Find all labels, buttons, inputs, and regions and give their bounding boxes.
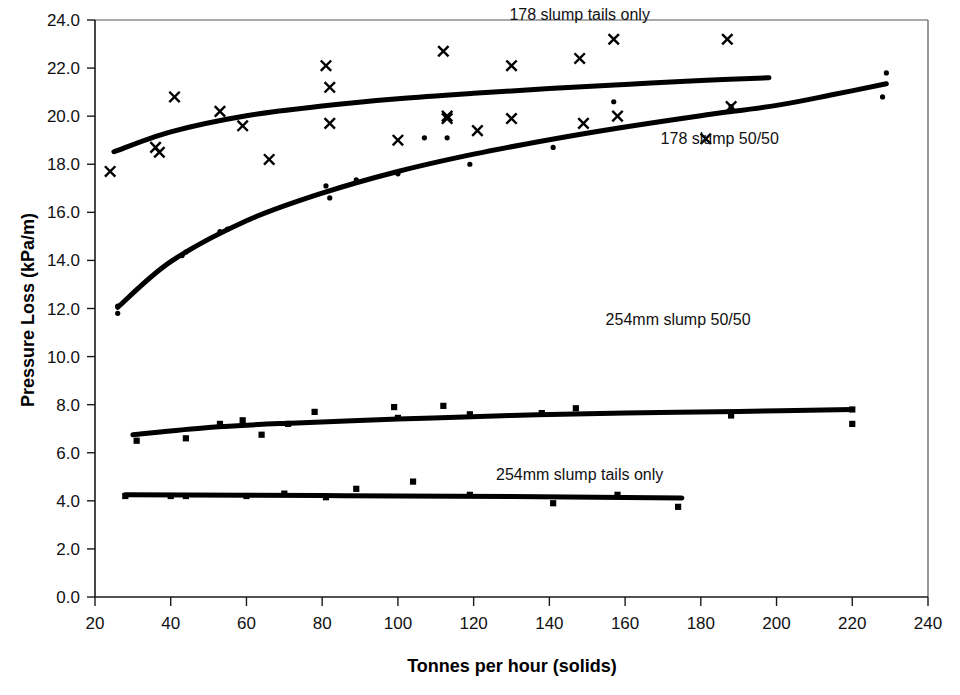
series-0-cross-marker [169, 92, 179, 102]
series-2-square-marker [728, 412, 734, 418]
series-1-dot-marker [551, 145, 556, 150]
series-0-cross-marker [325, 118, 335, 128]
series-3-square-marker [353, 486, 359, 492]
y-tick-label: 10.0 [47, 348, 80, 367]
series-1-dot-marker [115, 311, 120, 316]
series-3-square-marker [281, 491, 287, 497]
x-tick-label: 140 [535, 614, 563, 633]
y-tick-label: 16.0 [47, 203, 80, 222]
y-tick-label: 2.0 [56, 540, 80, 559]
y-axis-ticks: 0.02.04.06.08.010.012.014.016.018.020.02… [47, 11, 95, 607]
series-0-cross-marker [506, 60, 516, 70]
series-0-cross-marker [472, 125, 482, 135]
x-tick-label: 240 [914, 614, 942, 633]
pressure-loss-scatter-chart: 0.02.04.06.08.010.012.014.016.018.020.02… [0, 0, 960, 695]
series-3-square-marker [410, 479, 416, 485]
series-0-cross-marker [105, 166, 115, 176]
series-1-dot-marker [354, 177, 359, 182]
y-tick-label: 22.0 [47, 59, 80, 78]
x-tick-label: 20 [86, 614, 105, 633]
series-0-cross-marker [393, 135, 403, 145]
series-0-cross-marker [264, 154, 274, 164]
series-1-dot-marker [217, 229, 222, 234]
y-axis-title: Pressure Loss (kPa/m) [18, 213, 38, 407]
y-tick-label: 8.0 [56, 396, 80, 415]
x-tick-label: 40 [161, 614, 180, 633]
series-2-square-marker [217, 421, 223, 427]
series-0-cross-marker [722, 34, 732, 44]
x-tick-label: 100 [384, 614, 412, 633]
series-annotation-label-1: 178 slump 50/50 [661, 130, 779, 147]
x-tick-label: 200 [762, 614, 790, 633]
plot-frame [95, 20, 928, 597]
series-0-cross-marker [237, 121, 247, 131]
series-3-trend-curve [125, 495, 682, 498]
series-2-square-marker [391, 404, 397, 410]
series-annotation-label-2: 254mm slump 50/50 [606, 311, 751, 328]
series-1-dot-marker [880, 94, 885, 99]
y-tick-label: 18.0 [47, 155, 80, 174]
series-2-square-marker [285, 421, 291, 427]
series-2-square-marker [134, 438, 140, 444]
x-tick-label: 160 [611, 614, 639, 633]
series-3-square-marker [168, 493, 174, 499]
series-1-dot-marker [884, 70, 889, 75]
series-1-dot-marker [115, 303, 120, 308]
x-tick-label: 80 [313, 614, 332, 633]
series-2-square-marker [183, 435, 189, 441]
x-axis-ticks: 20406080100120140160180200220240 [86, 597, 943, 633]
series-3-square-marker [614, 492, 620, 498]
series-1-dot-marker [729, 104, 734, 109]
x-axis-title: Tonnes per hour (solids) [407, 656, 617, 676]
series-0-cross-marker [578, 118, 588, 128]
series-0-cross-marker [506, 113, 516, 123]
series-1-dot-marker [327, 195, 332, 200]
series-3-square-marker [183, 493, 189, 499]
series-0-cross-marker [154, 147, 164, 157]
series-1-dot-marker [422, 135, 427, 140]
series-2-square-marker [849, 406, 855, 412]
series-2-square-marker [467, 411, 473, 417]
y-tick-label: 14.0 [47, 251, 80, 270]
series-1-dot-marker [183, 249, 188, 254]
series-0-cross-marker [215, 106, 225, 116]
series-0-markers [105, 34, 736, 177]
series-3-square-marker [675, 504, 681, 510]
series-2-square-marker [240, 417, 246, 423]
x-tick-label: 60 [237, 614, 256, 633]
series-1-dot-marker [225, 227, 230, 232]
series-1-dot-marker [445, 135, 450, 140]
y-tick-label: 6.0 [56, 444, 80, 463]
x-tick-label: 180 [687, 614, 715, 633]
series-0-cross-marker [574, 53, 584, 63]
y-tick-label: 0.0 [56, 588, 80, 607]
y-tick-label: 24.0 [47, 11, 80, 30]
series-3-square-marker [243, 493, 249, 499]
series-0-cross-marker [438, 46, 448, 56]
series-annotation-label-0: 178 slump tails only [509, 6, 650, 23]
x-tick-label: 220 [838, 614, 866, 633]
series-3-square-marker [550, 500, 556, 506]
series-0-cross-marker [612, 111, 622, 121]
series-3-square-marker [467, 492, 473, 498]
series-2-square-marker [539, 410, 545, 416]
series-3-square-marker [323, 494, 329, 500]
y-tick-label: 12.0 [47, 300, 80, 319]
chart-container: 0.02.04.06.08.010.012.014.016.018.020.02… [0, 0, 960, 695]
series-2-square-marker [573, 405, 579, 411]
series-1-dot-marker [323, 183, 328, 188]
series-1-dot-marker [395, 171, 400, 176]
series-1-dot-marker [467, 162, 472, 167]
series-2-square-marker [395, 415, 401, 421]
series-3-square-marker [122, 493, 128, 499]
series-2-square-marker [312, 409, 318, 415]
series-annotation-label-3: 254mm slump tails only [496, 466, 663, 483]
x-tick-label: 120 [459, 614, 487, 633]
series-2-square-marker [259, 432, 265, 438]
series-0-cross-marker [325, 82, 335, 92]
series-0-cross-marker [609, 34, 619, 44]
y-tick-label: 4.0 [56, 492, 80, 511]
y-tick-label: 20.0 [47, 107, 80, 126]
series-2-square-marker [849, 421, 855, 427]
series-1-dot-marker [611, 99, 616, 104]
